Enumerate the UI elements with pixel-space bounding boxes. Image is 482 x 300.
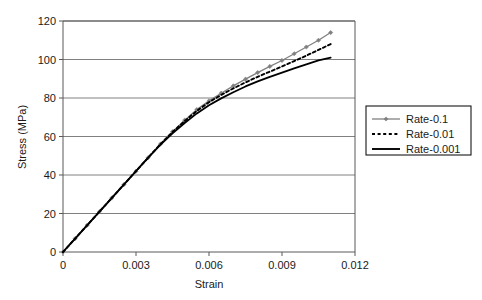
y-tick-label-100: 100 — [38, 54, 56, 66]
x-tick-label-0: 0 — [60, 259, 66, 271]
y-axis-title: Stress (MPa) — [16, 105, 28, 169]
chart-figure: 020406080100120 00.0030.0060.0090.012 St… — [0, 0, 482, 300]
y-tick-label-120: 120 — [38, 15, 56, 27]
legend-entries: Rate-0.1Rate-0.01Rate-0.001 — [372, 113, 460, 155]
chart-legend: Rate-0.1Rate-0.01Rate-0.001 — [366, 106, 471, 155]
x-tick-label-4: 0.012 — [341, 259, 369, 271]
y-tick-label-40: 40 — [44, 169, 56, 181]
legend-label-Rate-0.01: Rate-0.01 — [406, 128, 454, 140]
legend-label-Rate-0.1: Rate-0.1 — [406, 113, 448, 125]
x-tick-label-2: 0.006 — [195, 259, 223, 271]
x-tick-label-3: 0.009 — [268, 259, 296, 271]
x-axis-title: Strain — [195, 278, 224, 290]
y-tick-label-80: 80 — [44, 92, 56, 104]
stress-strain-chart: 020406080100120 00.0030.0060.0090.012 St… — [0, 0, 482, 300]
x-tick-label-1: 0.003 — [122, 259, 150, 271]
y-tick-label-20: 20 — [44, 208, 56, 220]
y-tick-label-60: 60 — [44, 131, 56, 143]
legend-label-Rate-0.001: Rate-0.001 — [406, 143, 460, 155]
y-tick-label-0: 0 — [50, 246, 56, 258]
